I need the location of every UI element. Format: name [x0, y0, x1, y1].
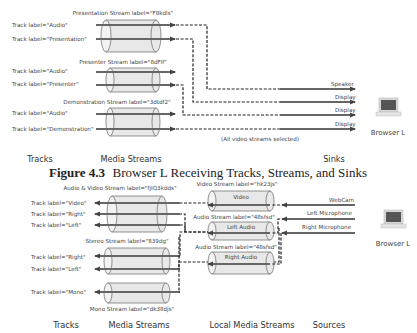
device-label: Browser L [376, 240, 411, 248]
track-label: Track label="Right" [30, 254, 86, 261]
source-label-left-microphone: Left Microphone [307, 210, 352, 217]
track-label: Track label="Left" [30, 266, 82, 272]
local-stream-label-left-audio: Audio Stream label="48sfsd" [193, 214, 275, 220]
source-label-webcam: WebCam [329, 197, 354, 203]
track-label: Track label="Audio" [11, 110, 68, 116]
column-header-tracks: Tracks [52, 320, 79, 330]
sink-label-display: Display [335, 121, 356, 128]
cylinder-demonstration [106, 108, 160, 136]
track-label: Track label="Presenter" [11, 81, 79, 87]
cylinder-stereo [104, 248, 170, 274]
stream-label-stereo: Stereo Stream label="839dg" [85, 238, 169, 245]
column-header-local-media-streams: Local Media Streams [210, 320, 295, 330]
note-all-video-selected: (All video streams selected) [221, 136, 299, 142]
stream-label-presenter: Presenter Stream label="8dFlf" [79, 59, 167, 65]
track-label: Track label="Demonstration" [11, 126, 94, 132]
local-inner-video: Video [233, 194, 249, 200]
track-label: Track label="Right" [30, 211, 86, 218]
device-label: Browser L [371, 129, 406, 137]
track-label: Track label="Video" [30, 200, 87, 206]
sink-label-display: Display [335, 107, 356, 114]
figure-caption: Figure 4.3 Browser L Receiving Tracks, S… [49, 163, 367, 180]
column-header-tracks: Tracks [26, 154, 53, 164]
column-header-media-streams: Media Streams [108, 320, 169, 330]
local-stream-label-video: Video Stream label="hk23js" [196, 181, 278, 188]
column-header-media-streams: Media Streams [100, 154, 161, 164]
track-label: Track label="Mono" [30, 289, 86, 295]
sink-label-speaker: Speaker [331, 81, 354, 88]
local-stream-label-right-audio: Audio Stream label="48sfsd" [195, 244, 277, 250]
track-label: Track label="Audio" [11, 22, 68, 28]
laptop-icon [376, 98, 401, 116]
track-label: Track label="Audio" [11, 68, 68, 74]
diagram-canvas: Presentation Stream label="F8kdls" Track… [0, 0, 417, 333]
source-label-right-microphone: Right Microphone [302, 224, 352, 231]
top-figure: Presentation Stream label="F8kdls" Track… [11, 10, 405, 164]
laptop-icon [381, 210, 406, 228]
sink-label-display: Display [335, 94, 356, 101]
figure-title: Browser L Receiving Tracks, Streams, and… [113, 165, 367, 180]
local-inner-right-audio: Right Audio [225, 254, 258, 261]
stream-label-demonstration: Demonstration Stream label="3dtdf2" [63, 99, 171, 105]
track-label: Track label="Presentation" [11, 36, 87, 42]
figure-number: Figure 4.3 [49, 165, 106, 180]
stream-label-mono: Mono Stream label="dk38djs" [90, 306, 175, 313]
cylinder-mono [104, 283, 170, 303]
column-header-sinks: Sinks [323, 154, 345, 164]
local-inner-left-audio: Left Audio [227, 224, 256, 230]
track-label: Track label="Left" [30, 222, 82, 228]
column-header-sources: Sources [313, 320, 345, 330]
bottom-figure: Audio & Video Stream label="fjIQ3kdds" T… [30, 181, 410, 330]
stream-label-audio-video: Audio & Video Stream label="fjIQ3kdds" [63, 185, 176, 192]
stream-label-presentation: Presentation Stream label="F8kdls" [73, 10, 174, 16]
